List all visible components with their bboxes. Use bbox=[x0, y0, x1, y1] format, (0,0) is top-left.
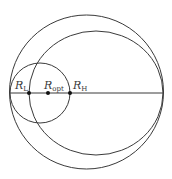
label-rh: RH bbox=[72, 79, 87, 93]
label-rl: RL bbox=[14, 79, 28, 93]
diagram-canvas: RL Ropt RH bbox=[0, 0, 172, 179]
circles-diagram: RL Ropt RH bbox=[0, 0, 172, 179]
point-rh-dot bbox=[68, 91, 72, 95]
label-ropt: Ropt bbox=[43, 79, 64, 93]
